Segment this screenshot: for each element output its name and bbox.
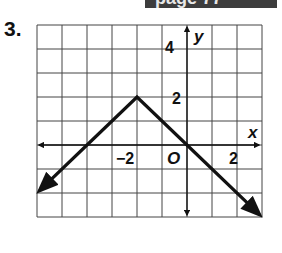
y-tick-2: 2	[172, 90, 181, 107]
graph: y x 4 2 −2 2 O	[0, 0, 282, 253]
x-axis-label: x	[247, 123, 259, 142]
x-tick-2: 2	[229, 150, 238, 167]
function-graph-line	[40, 97, 260, 215]
y-tick-4: 4	[165, 39, 174, 56]
grid-lines	[37, 25, 262, 217]
x-tick-neg2: −2	[116, 150, 134, 167]
origin-label: O	[167, 149, 180, 168]
y-axis-label: y	[193, 27, 205, 46]
